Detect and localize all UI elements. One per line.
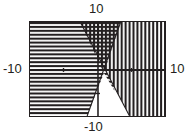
x-axis-min-label: -10 — [3, 62, 22, 75]
x-axis-max-label: 10 — [170, 62, 184, 75]
plot-area — [30, 22, 165, 116]
region-plot: 10 -10 10 -10 — [0, 0, 191, 138]
region-shading-svg — [30, 22, 165, 116]
y-axis-min-label: -10 — [84, 120, 103, 133]
y-axis-max-label: 10 — [89, 2, 103, 15]
plot-frame — [29, 21, 166, 117]
